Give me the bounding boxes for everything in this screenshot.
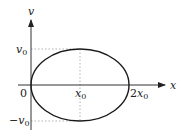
x-axis-label: x bbox=[170, 79, 177, 92]
x0-label: x0 bbox=[75, 87, 86, 101]
two-x0-label: 2x0 bbox=[130, 87, 148, 101]
v0-label: v0 bbox=[16, 43, 27, 57]
phase-diagram: v x 0 x0 2x0 v0 −v0 bbox=[0, 0, 185, 136]
origin-label: 0 bbox=[20, 87, 27, 100]
v-axis-label: v bbox=[28, 5, 35, 18]
neg-v0-label: −v0 bbox=[9, 114, 30, 128]
